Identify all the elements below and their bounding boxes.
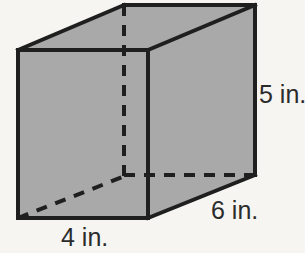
dimension-label-height: 5 in.: [259, 82, 305, 107]
dimension-label-width: 4 in.: [61, 225, 108, 250]
figure-container: 5 in. 6 in. 4 in.: [0, 0, 305, 253]
rectangular-prism-drawing: [0, 0, 305, 253]
dimension-label-depth: 6 in.: [211, 198, 258, 223]
